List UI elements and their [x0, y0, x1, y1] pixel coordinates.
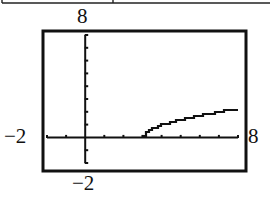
table-fragment: [2, 0, 270, 3]
axes: [47, 35, 238, 163]
axis-ticks: [47, 35, 238, 163]
function-curve: [143, 110, 238, 137]
viewing-window-frame: [43, 31, 246, 171]
xmin-label: −2: [4, 126, 26, 147]
xmax-label: 8: [248, 126, 259, 147]
ymax-label: 8: [77, 6, 88, 27]
ymin-label: −2: [72, 173, 94, 194]
plot-svg: [0, 0, 270, 197]
graphing-calculator-screen: 8 −2 8 −2: [0, 0, 270, 197]
